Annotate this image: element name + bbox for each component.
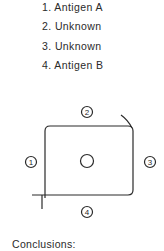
immunodiffusion-diagram: 2 1 3 4 — [0, 0, 164, 251]
precipitin-line — [32, 126, 133, 198]
center-well-icon — [81, 155, 94, 168]
well-label-3: 3 — [148, 158, 153, 167]
conclusions-heading: Conclusions: — [12, 238, 76, 250]
well-label-4: 4 — [85, 208, 90, 217]
well-label-2: 2 — [85, 108, 90, 117]
well-label-1: 1 — [29, 158, 34, 167]
